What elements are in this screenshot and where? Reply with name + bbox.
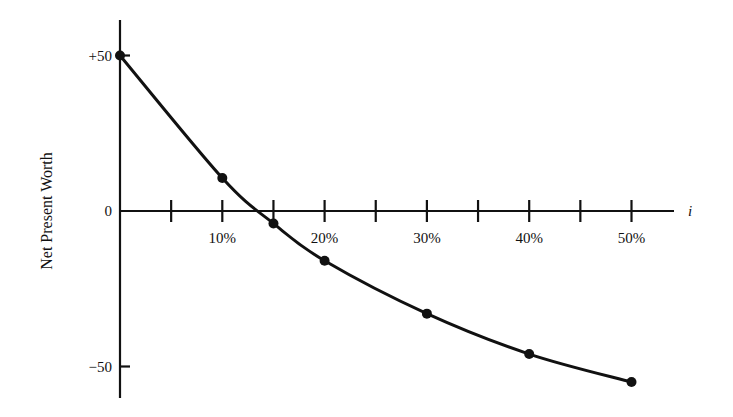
data-point xyxy=(422,309,432,319)
npw-chart: 10%20%30%40%50%+500−50 Net Present Worth… xyxy=(0,0,733,417)
data-point xyxy=(524,349,534,359)
y-tick-label: −50 xyxy=(89,359,112,375)
y-tick-label: +50 xyxy=(89,48,112,64)
data-point xyxy=(115,51,125,61)
x-tick-label: 40% xyxy=(515,230,543,246)
axes xyxy=(120,20,674,398)
data-point xyxy=(320,256,330,266)
data-point xyxy=(627,377,637,387)
x-axis-label: i xyxy=(688,203,692,219)
x-tick-label: 10% xyxy=(209,230,237,246)
y-tick-label: 0 xyxy=(105,203,113,219)
data-point xyxy=(217,173,227,183)
x-tick-label: 30% xyxy=(413,230,441,246)
x-tick-label: 50% xyxy=(618,230,646,246)
y-axis-label: Net Present Worth xyxy=(38,152,55,270)
data-point xyxy=(268,218,278,228)
x-tick-label: 20% xyxy=(311,230,339,246)
